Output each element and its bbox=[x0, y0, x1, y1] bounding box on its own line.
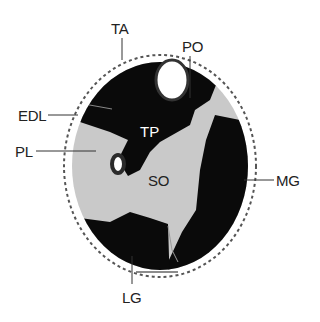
tibia-bone bbox=[156, 60, 188, 100]
label-lg: LG bbox=[122, 289, 141, 306]
label-tp: TP bbox=[140, 123, 159, 140]
fibula-bone bbox=[112, 155, 124, 173]
label-so: SO bbox=[148, 172, 169, 189]
leg-cross-section-diagram: TA PO EDL PL TP SO MG LG bbox=[0, 0, 320, 322]
label-edl: EDL bbox=[18, 107, 46, 124]
label-ta: TA bbox=[111, 20, 129, 37]
label-po: PO bbox=[182, 38, 203, 55]
label-pl: PL bbox=[15, 143, 33, 160]
label-mg: MG bbox=[276, 172, 300, 189]
